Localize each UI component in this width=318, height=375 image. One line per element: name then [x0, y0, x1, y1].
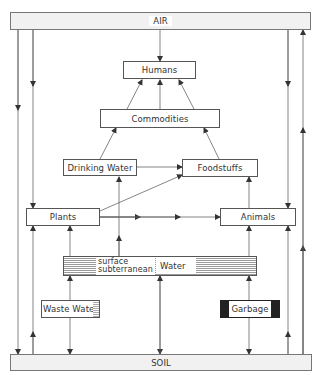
- node-water: surface subterranean Water: [63, 256, 257, 276]
- edge-drinking-commodities: [100, 128, 116, 159]
- node-drinking-water: Drinking Water: [63, 159, 137, 176]
- node-commodities-label: Commodities: [131, 114, 188, 124]
- node-waste-water-label: Waste Water: [43, 304, 98, 314]
- node-commodities: Commodities: [100, 109, 220, 128]
- water-main-label-wrap: Water: [156, 258, 196, 274]
- edge-commodities-humans-left: [127, 80, 142, 109]
- node-garbage: Garbage: [220, 300, 280, 318]
- node-waste-water: Waste Water: [41, 300, 100, 318]
- water-subterranean-label: subterranean: [98, 266, 153, 274]
- node-foodstuffs: Foodstuffs: [182, 159, 258, 177]
- node-water-label: Water: [160, 261, 186, 271]
- node-soil: SOIL: [10, 354, 312, 371]
- edge-foodstuffs-commodities: [204, 128, 219, 159]
- node-garbage-label: Garbage: [229, 301, 270, 317]
- node-animals-label: Animals: [241, 212, 276, 222]
- node-air-label: AIR: [149, 16, 172, 26]
- node-soil-label: SOIL: [151, 358, 171, 368]
- edge-commodities-humans-right: [179, 80, 194, 109]
- node-air: AIR: [10, 12, 311, 30]
- node-humans-label: Humans: [142, 65, 178, 75]
- node-drinking-water-label: Drinking Water: [67, 163, 132, 173]
- water-sublabels: surface subterranean: [96, 257, 155, 275]
- node-plants: Plants: [26, 208, 100, 226]
- waste-water-hatch: [93, 301, 99, 317]
- node-humans: Humans: [123, 61, 196, 79]
- node-plants-label: Plants: [50, 212, 76, 222]
- edge-plants-foodstuffs: [100, 175, 182, 211]
- node-animals: Animals: [220, 208, 296, 226]
- node-foodstuffs-label: Foodstuffs: [198, 163, 243, 173]
- flow-diagram-lines: [0, 0, 318, 375]
